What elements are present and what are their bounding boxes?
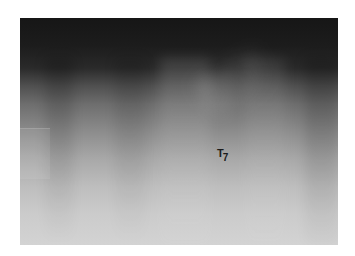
edge-structure <box>20 128 50 179</box>
xray-image: T7 <box>20 18 338 245</box>
tissue-shadow <box>115 58 145 245</box>
vertebra-label-number: 7 <box>223 152 229 163</box>
tissue-shadow <box>305 58 338 245</box>
vertebra-label: T7 <box>217 148 229 162</box>
